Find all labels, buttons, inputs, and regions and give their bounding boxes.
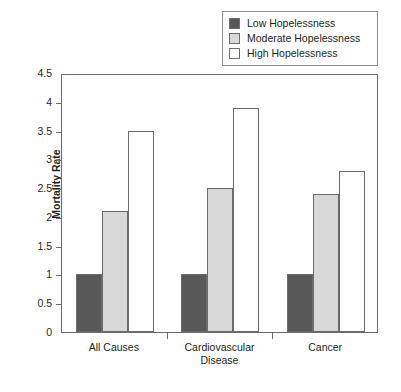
y-tick-label: 2.5 (37, 182, 52, 195)
y-tick-label: 4 (46, 96, 52, 109)
legend-label-high: High Hopelessness (247, 48, 337, 59)
plot-frame (61, 74, 378, 333)
legend-item-low: Low Hopelessness (229, 16, 372, 31)
legend-label-low: Low Hopelessness (247, 18, 335, 29)
legend-label-moderate: Moderate Hopelessness (247, 33, 360, 44)
y-tick-label: 3.5 (37, 125, 52, 138)
plot-area (62, 75, 377, 332)
y-tick-label: 2 (46, 211, 52, 224)
bar (233, 108, 259, 332)
x-tick-mark (167, 333, 168, 339)
legend-item-moderate: Moderate Hopelessness (229, 31, 372, 46)
legend-item-high: High Hopelessness (229, 46, 372, 61)
bar (181, 274, 207, 332)
y-tick-label: 0.5 (37, 297, 52, 310)
bar (287, 274, 313, 332)
x-tick-mark (272, 333, 273, 339)
bar (102, 211, 128, 332)
bar-group (168, 75, 274, 332)
y-tick-label: 4.5 (37, 67, 52, 80)
y-tick-label: 0 (46, 326, 52, 339)
y-tick-label: 1 (46, 268, 52, 281)
bar (128, 131, 154, 332)
bar (76, 274, 102, 332)
legend-swatch-high (229, 48, 240, 59)
bar (313, 194, 339, 332)
legend-swatch-moderate (229, 33, 240, 44)
bar (339, 171, 365, 332)
bar-group (273, 75, 379, 332)
bar-group (62, 75, 168, 332)
bar (207, 188, 233, 332)
x-axis-label: All Causes (61, 341, 167, 354)
legend-swatch-low (229, 18, 240, 29)
x-axis-label: Cancer (272, 341, 378, 354)
x-axis-label: CardiovascularDisease (167, 341, 273, 367)
chart-legend: Low Hopelessness Moderate Hopelessness H… (222, 11, 378, 66)
y-tick-label: 1.5 (37, 240, 52, 253)
y-tick-label: 3 (46, 153, 52, 166)
